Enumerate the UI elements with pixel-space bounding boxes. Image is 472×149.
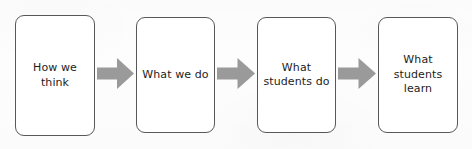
process-flow-diagram: How we think What we do What students do… [0, 0, 472, 149]
process-stage-label-3: What students do [258, 61, 334, 90]
flow-arrow-icon-3 [338, 58, 376, 89]
process-stage-label-1: How we think [16, 61, 94, 90]
process-stage-box-3[interactable]: What students do [257, 17, 336, 133]
process-stage-box-4[interactable]: What students learn [378, 17, 458, 133]
process-stage-label-2: What we do [137, 68, 213, 83]
process-stage-label-4: What students learn [389, 53, 448, 97]
flow-arrow-icon-2 [217, 58, 255, 89]
process-stage-box-2[interactable]: What we do [136, 17, 215, 133]
flow-arrow-icon-1 [97, 58, 134, 89]
process-stage-box-1[interactable]: How we think [15, 15, 95, 136]
